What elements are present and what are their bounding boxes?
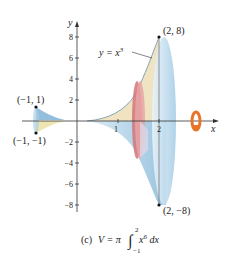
point-neg1-1 xyxy=(34,105,37,108)
svg-text:−2: −2 xyxy=(64,138,73,147)
svg-text:x6 dx: x6 dx xyxy=(138,233,159,245)
y-ticks: 8 6 4 2 −2 −4 −6 −8 xyxy=(64,33,73,210)
point-label-neg1-1: (−1, 1) xyxy=(17,94,44,106)
svg-text:V = π: V = π xyxy=(98,234,122,245)
caption: (c) V = π ∫ 2 −1 x6 dx xyxy=(81,226,159,255)
y-axis-label: y xyxy=(67,17,73,28)
curve-leader-line xyxy=(132,52,152,58)
svg-text:−1: −1 xyxy=(133,247,141,255)
x-tick-2: 2 xyxy=(157,125,161,134)
rotation-arrow-icon xyxy=(192,112,200,131)
point-2-8 xyxy=(157,35,160,38)
point-label-2-8: (2, 8) xyxy=(163,25,185,37)
y-axis-arrow-icon xyxy=(75,21,79,27)
svg-text:−4: −4 xyxy=(64,159,73,168)
svg-text:2: 2 xyxy=(135,226,139,234)
point-label-2-neg8: (2, −8) xyxy=(163,205,190,217)
svg-text:−6: −6 xyxy=(64,180,73,189)
point-label-neg1-neg1: (−1, −1) xyxy=(13,135,46,147)
x-tick-1: 1 xyxy=(114,125,118,134)
svg-text:2: 2 xyxy=(69,96,73,105)
svg-text:−8: −8 xyxy=(64,201,73,210)
svg-text:(c): (c) xyxy=(81,234,92,246)
point-2-neg8 xyxy=(157,203,160,206)
x-axis-label: x xyxy=(210,123,216,134)
svg-text:8: 8 xyxy=(69,33,73,42)
curve-label: y = x3 xyxy=(98,46,124,58)
left-solid xyxy=(33,107,65,133)
svg-text:4: 4 xyxy=(69,75,73,84)
volume-diagram: (2, 8) (2, −8) (−1, 1) (−1, −1) y = x3 x… xyxy=(0,0,225,259)
svg-text:6: 6 xyxy=(69,54,73,63)
